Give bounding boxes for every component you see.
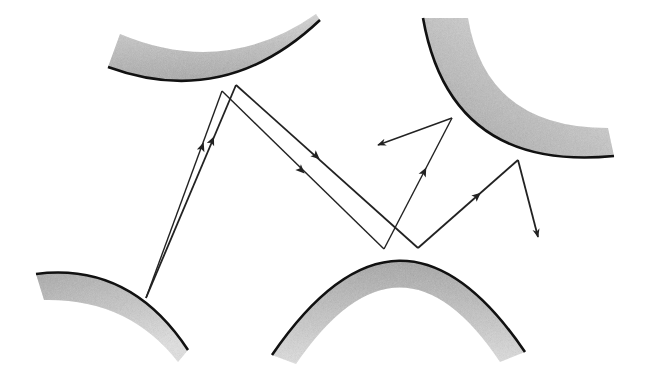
surface-bottom-left — [36, 273, 188, 362]
arrow-head-icon — [419, 166, 430, 178]
arrow-head-icon — [207, 135, 218, 146]
arrow-head-icon — [197, 141, 208, 152]
ray-1 — [146, 91, 222, 298]
surface-bottom-middle — [272, 261, 525, 364]
surface-top-right — [423, 18, 614, 158]
arrow-head-icon — [295, 164, 307, 176]
ray-4 — [236, 85, 418, 248]
ray-7 — [378, 118, 452, 145]
ray-2 — [146, 85, 236, 298]
ray-6 — [418, 160, 518, 248]
reflection-diagram — [0, 0, 650, 375]
ray-5 — [384, 118, 452, 249]
ray-8 — [518, 160, 538, 237]
surface-top-left — [108, 14, 320, 81]
